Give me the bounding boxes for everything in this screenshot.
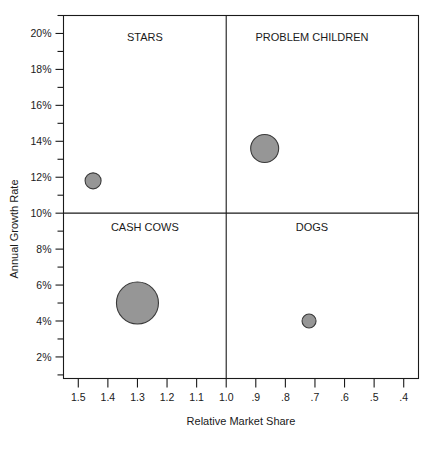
cash-cows-bubble [116,282,158,324]
y-tick-label: 6% [36,279,51,291]
x-tick-label: .4 [399,391,408,403]
x-tick-label: .7 [311,391,320,403]
plot-frame [64,16,419,379]
x-tick-label: 1.3 [130,391,145,403]
y-axis-title: Annual Growth Rate [8,179,20,278]
quadrant-label-dogs: DOGS [296,221,328,233]
quadrant-label-stars: STARS [127,31,163,43]
y-tick-label: 10% [30,207,51,219]
x-tick-label: .5 [370,391,379,403]
y-tick-label: 12% [30,171,51,183]
y-axis-tick-marks [56,16,64,375]
x-tick-label: .6 [340,391,349,403]
x-axis-title: Relative Market Share [187,415,296,427]
x-tick-label: 1.2 [160,391,175,403]
dogs-bubble [302,314,316,328]
chart-canvas: 20%18%16%14%12%10%8%6%4%2% 1.51.41.31.21… [0,0,433,449]
x-tick-label: .9 [251,391,260,403]
y-tick-label: 14% [30,135,51,147]
y-tick-label: 2% [36,351,51,363]
x-tick-label: 1.0 [219,391,234,403]
y-tick-label: 4% [36,315,51,327]
y-tick-label: 16% [30,99,51,111]
quadrant-label-cash-cows: CASH COWS [111,221,179,233]
problem-children-bubble [251,134,279,162]
stars-bubble [85,173,101,189]
y-tick-label: 18% [30,63,51,75]
x-tick-label: .8 [281,391,290,403]
x-tick-label: 1.5 [71,391,86,403]
y-tick-label: 8% [36,243,51,255]
x-tick-label: 1.4 [101,391,116,403]
bcg-growth-share-matrix: 20%18%16%14%12%10%8%6%4%2% 1.51.41.31.21… [0,0,433,449]
y-tick-label: 20% [30,27,51,39]
y-axis-tick-labels: 20%18%16%14%12%10%8%6%4%2% [30,27,51,362]
x-axis-tick-marks [78,379,403,388]
x-axis-tick-labels: 1.51.41.31.21.11.0.9.8.7.6.5.4 [71,391,408,403]
quadrant-label-problem-children: PROBLEM CHILDREN [255,31,368,43]
quadrant-labels: STARSPROBLEM CHILDRENCASH COWSDOGS [111,31,369,233]
x-tick-label: 1.1 [189,391,204,403]
